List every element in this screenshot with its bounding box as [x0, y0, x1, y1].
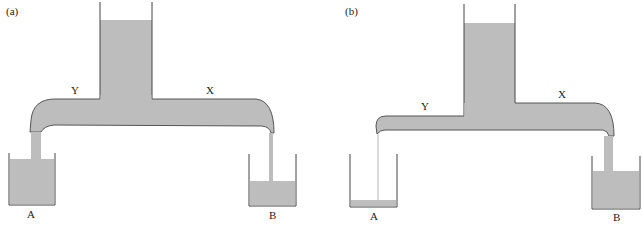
panel-b: (b) Y X A B — [345, 4, 640, 223]
beaker-b-label-a: B — [269, 209, 276, 221]
arm-y-label-b: Y — [421, 100, 429, 112]
panel-b-label: (b) — [345, 5, 358, 18]
beaker-a-label-b: A — [370, 210, 378, 222]
stream-to-a-panel-a — [31, 132, 41, 159]
column-liquid-a — [100, 20, 152, 100]
panel-a-label: (a) — [6, 5, 19, 18]
arm-y-label-a: Y — [71, 84, 79, 96]
beaker-a-label-a: A — [27, 208, 35, 220]
beaker-b-liquid-panel-b — [593, 171, 639, 208]
horizontal-pipe-a — [30, 99, 274, 133]
column-liquid-b — [464, 23, 515, 103]
beaker-a-liquid-panel-a — [10, 159, 54, 204]
beaker-b-label-b: B — [613, 211, 620, 223]
beaker-b-liquid-panel-a — [250, 181, 295, 205]
beaker-a-liquid-panel-b — [351, 200, 396, 206]
siphon-diagram: (a) Y X A B (b) — [0, 0, 642, 225]
arm-x-label-a: X — [206, 84, 214, 96]
stream-to-b-panel-b — [604, 136, 613, 172]
junction-fill-a — [101, 95, 152, 100]
panel-a: (a) Y X A B — [6, 2, 296, 221]
stream-to-b-panel-a — [269, 133, 273, 182]
beaker-a-panel-b — [350, 154, 397, 207]
junction-fill-b — [465, 103, 515, 117]
arm-x-label-b: X — [558, 88, 566, 100]
